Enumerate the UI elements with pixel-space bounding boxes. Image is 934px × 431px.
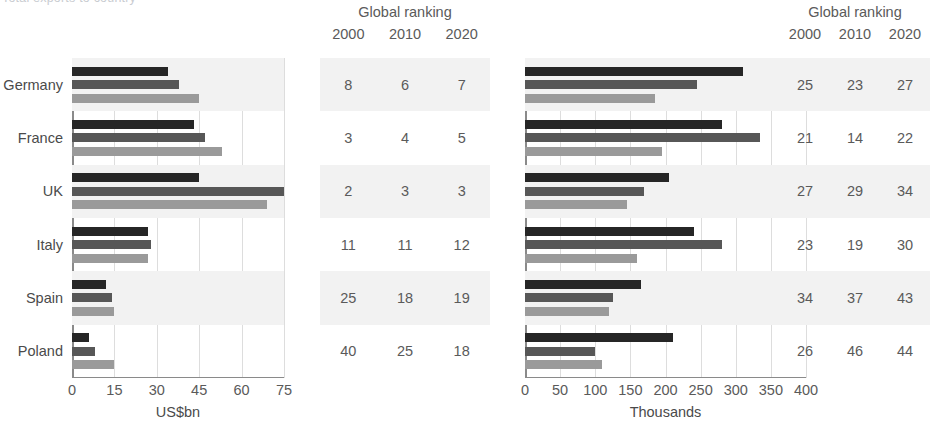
bar-poland-2010 — [72, 347, 95, 356]
bar-uk-2020 — [72, 200, 267, 209]
bar-france-2010 — [72, 133, 205, 142]
bar-group — [72, 165, 284, 218]
rank-cell-2020: 30 — [880, 237, 930, 253]
rank-year-2000-right: 2000 — [780, 26, 830, 42]
rank-row: 111112 — [320, 218, 490, 271]
plot-area-right — [525, 58, 806, 378]
bar-uk-2010 — [72, 187, 284, 196]
bar-row: UK — [72, 165, 284, 218]
rank-cell-2000: 26 — [780, 343, 830, 359]
x-tick-label: 150 — [618, 382, 642, 398]
bar-italy-2000 — [72, 227, 148, 236]
rank-row: 272934 — [780, 165, 930, 218]
chart-panel-right: Global ranking 2000 2010 2020 2523272114… — [500, 0, 934, 431]
bar-rows-right — [525, 58, 806, 378]
bar-group — [525, 165, 806, 218]
rank-cell-2020: 34 — [880, 183, 930, 199]
x-tick-label: 100 — [583, 382, 607, 398]
x-axis-line-left — [72, 377, 284, 379]
country-label: UK — [43, 183, 63, 199]
bar-germany-2000 — [72, 67, 168, 76]
bar-uk-2000 — [72, 173, 199, 182]
bar-rows-left: GermanyFranceUKItalySpainPoland — [72, 58, 284, 378]
bar-poland-2000 — [525, 333, 673, 342]
rank-cell-2010: 25 — [377, 343, 434, 359]
x-axis-caption-right: Thousands — [525, 404, 806, 420]
bar-row — [525, 111, 806, 164]
bar-group — [72, 218, 284, 271]
bar-row — [525, 325, 806, 378]
bar-group — [72, 111, 284, 164]
rank-cell-2010: 23 — [830, 77, 880, 93]
rank-cell-2010: 18 — [377, 290, 434, 306]
x-tick-label: 250 — [689, 382, 713, 398]
bar-italy-2010 — [525, 240, 722, 249]
bar-italy-2020 — [72, 254, 148, 263]
bar-poland-2000 — [72, 333, 89, 342]
rank-year-2010-right: 2010 — [830, 26, 880, 42]
rank-cell-2010: 4 — [377, 130, 434, 146]
rank-cell-2000: 27 — [780, 183, 830, 199]
x-tick-label: 0 — [521, 382, 529, 398]
bar-spain-2000 — [525, 280, 641, 289]
bar-group — [525, 271, 806, 324]
x-tick-label: 60 — [234, 382, 250, 398]
bar-uk-2000 — [525, 173, 669, 182]
rank-cell-2000: 8 — [320, 77, 377, 93]
rank-cell-2000: 23 — [780, 237, 830, 253]
rank-row: 252327 — [780, 58, 930, 111]
rank-year-row-right: 2000 2010 2020 — [780, 26, 930, 42]
rank-cell-2020: 19 — [433, 290, 490, 306]
bar-row: Spain — [72, 271, 284, 324]
bar-row — [525, 271, 806, 324]
bar-france-2020 — [72, 147, 222, 156]
bar-germany-2000 — [525, 67, 743, 76]
rank-cell-2000: 40 — [320, 343, 377, 359]
rank-values-left: 867345233111112251819402518 — [320, 58, 490, 378]
bar-row — [525, 218, 806, 271]
rank-cell-2010: 14 — [830, 130, 880, 146]
bar-row — [525, 58, 806, 111]
bar-france-2020 — [525, 147, 662, 156]
rank-year-2020-right: 2020 — [880, 26, 930, 42]
rank-cell-2020: 18 — [433, 343, 490, 359]
country-label: Italy — [36, 237, 63, 253]
rank-cell-2000: 3 — [320, 130, 377, 146]
rank-cell-2020: 12 — [433, 237, 490, 253]
rank-cell-2020: 27 — [880, 77, 930, 93]
bar-group — [525, 111, 806, 164]
rank-header-left: Global ranking 2000 2010 2020 — [320, 4, 490, 56]
rank-header-right: Global ranking 2000 2010 2020 — [780, 4, 930, 56]
x-tick-labels-right: 050100150200250300350400 — [525, 382, 806, 402]
rank-row: 251819 — [320, 271, 490, 324]
plot-area-left: GermanyFranceUKItalySpainPoland — [72, 58, 284, 378]
bar-poland-2010 — [525, 347, 595, 356]
rank-row: 867 — [320, 58, 490, 111]
country-label: Spain — [26, 290, 63, 306]
rank-cell-2010: 37 — [830, 290, 880, 306]
rank-year-row-left: 2000 2010 2020 — [320, 26, 490, 42]
bar-italy-2010 — [72, 240, 151, 249]
rank-cell-2000: 34 — [780, 290, 830, 306]
bar-row — [525, 165, 806, 218]
rank-cell-2000: 21 — [780, 130, 830, 146]
rank-header-title-left: Global ranking — [320, 4, 490, 20]
bar-germany-2010 — [72, 80, 179, 89]
rank-cell-2000: 25 — [780, 77, 830, 93]
bar-group — [525, 58, 806, 111]
x-tick-label: 50 — [552, 382, 568, 398]
x-tick-label: 200 — [653, 382, 677, 398]
bar-spain-2020 — [72, 307, 114, 316]
rank-row: 211422 — [780, 111, 930, 164]
x-tick-label: 400 — [794, 382, 818, 398]
rank-cell-2010: 6 — [377, 77, 434, 93]
rank-cell-2000: 25 — [320, 290, 377, 306]
x-tick-label: 300 — [724, 382, 748, 398]
rank-cell-2010: 11 — [377, 237, 434, 253]
x-tick-label: 30 — [149, 382, 165, 398]
rank-row: 264644 — [780, 325, 930, 378]
bar-spain-2000 — [72, 280, 106, 289]
bar-row: France — [72, 111, 284, 164]
x-tick-label: 45 — [191, 382, 207, 398]
rank-cell-2010: 29 — [830, 183, 880, 199]
